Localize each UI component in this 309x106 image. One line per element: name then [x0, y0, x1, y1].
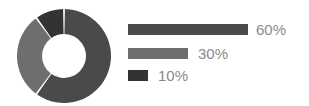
donut-slices: [17, 9, 111, 103]
legend-item-30[interactable]: 30%: [128, 43, 228, 63]
donut-chart-svg: [17, 9, 111, 103]
donut-chart: [17, 9, 111, 103]
legend-item-10[interactable]: 10%: [128, 65, 188, 85]
legend-bar-30: [128, 48, 188, 59]
legend-bar-10: [128, 70, 148, 81]
legend-label-10: 10%: [158, 68, 188, 83]
chart-legend: 60% 30% 10%: [128, 18, 309, 92]
donut-chart-figure: 60% 30% 10%: [0, 0, 309, 106]
legend-label-30: 30%: [198, 46, 228, 61]
donut-slice-30[interactable]: [17, 19, 51, 94]
legend-bar-60: [128, 24, 248, 35]
legend-label-60: 60%: [256, 22, 286, 37]
legend-item-60[interactable]: 60%: [128, 19, 286, 39]
